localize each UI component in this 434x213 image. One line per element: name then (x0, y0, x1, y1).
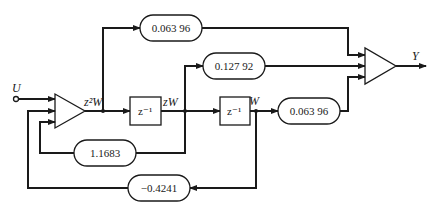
input-summer (55, 94, 85, 128)
signal-zw-label: zW (162, 95, 179, 109)
gain-fb1-label: 1.1683 (90, 147, 121, 159)
signal-w-label: W (249, 94, 260, 108)
delay-1-label: z⁻¹ (138, 105, 152, 117)
output-label: Y (412, 49, 420, 63)
input-label: U (12, 81, 22, 95)
gain-ff0-label: 0.063 96 (152, 22, 191, 34)
ff0-to-sum (202, 28, 365, 55)
gain-ff1-label: 0.127 92 (215, 60, 254, 72)
delay-2-label: z⁻¹ (227, 105, 241, 117)
gain-fb2-label: −0.4241 (141, 182, 177, 194)
ff1-line (185, 66, 203, 111)
block-diagram: U Y z²W zW W z⁻¹ z⁻¹ 0.063 96 0.127 92 0… (0, 0, 434, 213)
output-summer (365, 48, 396, 84)
ff2-to-sum (340, 77, 365, 111)
gain-ff2-label: 0.063 96 (290, 105, 329, 117)
signal-z2w-label: z²W (83, 95, 103, 109)
input-terminal (14, 97, 56, 102)
